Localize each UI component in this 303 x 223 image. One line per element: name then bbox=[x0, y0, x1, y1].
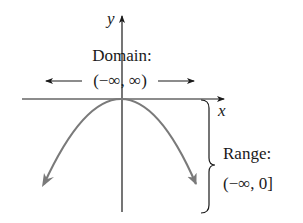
parabola-diagram: y x Domain: (−∞, ∞) Range: (−∞, 0] bbox=[0, 0, 303, 223]
range-title: Range: bbox=[223, 144, 271, 163]
domain-interval: (−∞, ∞) bbox=[93, 71, 147, 90]
range-interval: (−∞, 0] bbox=[223, 174, 273, 193]
range-brace bbox=[201, 100, 215, 213]
y-axis-label: y bbox=[105, 9, 115, 28]
domain-title: Domain: bbox=[92, 46, 152, 65]
x-axis-label: x bbox=[217, 101, 226, 120]
parabola-curve bbox=[44, 99, 196, 184]
